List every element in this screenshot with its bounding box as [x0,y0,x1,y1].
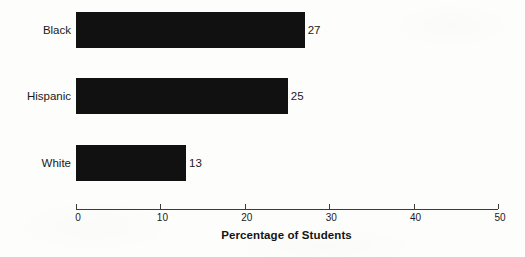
bar-row: Black 27 [76,12,498,48]
x-axis-tick-label: 10 [157,212,168,223]
category-label-black: Black [0,24,71,36]
bar-black [76,12,305,48]
bar-row: Hispanic 25 [76,78,498,114]
x-axis-tick-label: 30 [326,212,337,223]
x-axis-tick [76,204,77,209]
bar-chart: Black 27 Hispanic 25 White 13 0 10 20 30… [0,0,525,257]
x-axis-tick [329,204,330,209]
x-axis-tick [160,204,161,209]
bar-value-hispanic: 25 [288,90,304,102]
x-axis-title-text: Percentage of Students [221,229,352,241]
plot-area: Black 27 Hispanic 25 White 13 0 10 20 30… [0,0,525,257]
x-axis-line [76,209,498,210]
x-axis-tick-label: 50 [494,212,505,223]
bar-value-black: 27 [305,24,321,36]
bar-row: White 13 [76,145,498,181]
x-axis-tick [245,204,246,209]
category-label-white: White [0,157,71,169]
x-axis-tick-label: 40 [410,212,421,223]
bar-value-white: 13 [186,157,202,169]
bar-hispanic [76,78,288,114]
x-axis-tick [414,204,415,209]
bar-white [76,145,186,181]
x-axis-tick-label: 0 [75,212,81,223]
x-axis-tick [498,204,499,209]
x-axis-tick-label: 20 [241,212,252,223]
category-label-hispanic: Hispanic [0,90,71,102]
x-axis-title: Percentage of Students [0,229,525,241]
